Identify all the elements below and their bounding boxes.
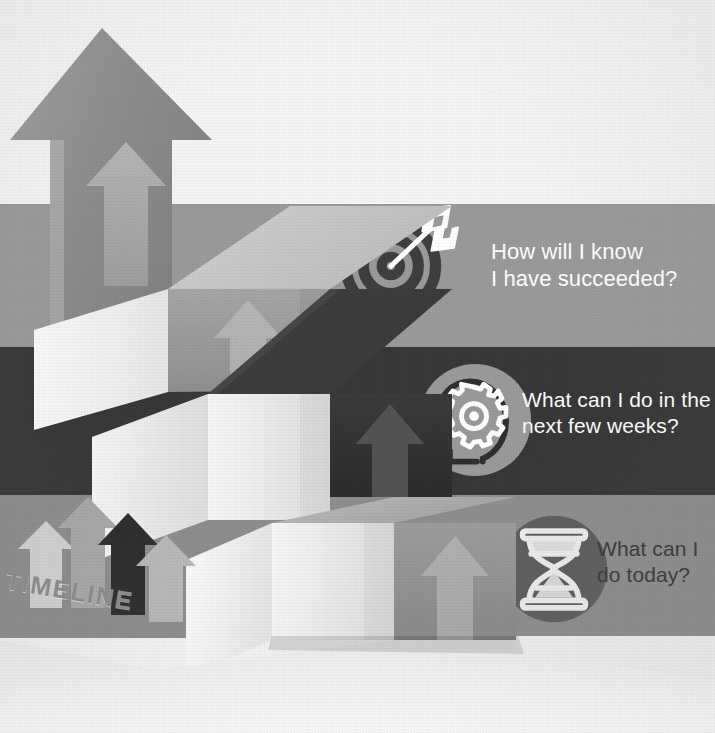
infographic-canvas: How will I know I have succeeded? What c… (0, 0, 715, 733)
band-middle-question: What can I do in the next few weeks? (522, 387, 711, 438)
band-top-question: How will I know I have succeeded? (491, 239, 677, 293)
staircase-illustration (0, 0, 715, 733)
band-bottom-question: What can I do today? (597, 536, 698, 587)
